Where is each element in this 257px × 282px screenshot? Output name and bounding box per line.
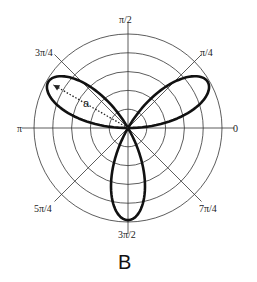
grid-spoke [128,128,202,202]
tick-label-7pi-4: 7π/4 [199,203,217,214]
tick-label-pi: π [17,123,22,134]
annotation-a: a [83,97,90,109]
tick-label-0: 0 [233,123,238,134]
rose-petal [128,76,209,128]
polar-plot: 0 π/4 π/2 3π/4 π 5π/4 3π/2 7π/4 a B [0,0,257,282]
grid-spoke [55,55,129,129]
tick-label-5pi-4: 5π/4 [34,203,52,214]
tick-label-3pi-2: 3π/2 [118,229,136,240]
grid-spoke [128,55,202,129]
tick-label-pi-2: π/2 [119,14,132,25]
tick-label-pi-4: π/4 [200,47,213,58]
tick-label-3pi-4: 3π/4 [35,47,53,58]
panel-label: B [118,251,131,273]
grid-spoke [55,128,129,202]
